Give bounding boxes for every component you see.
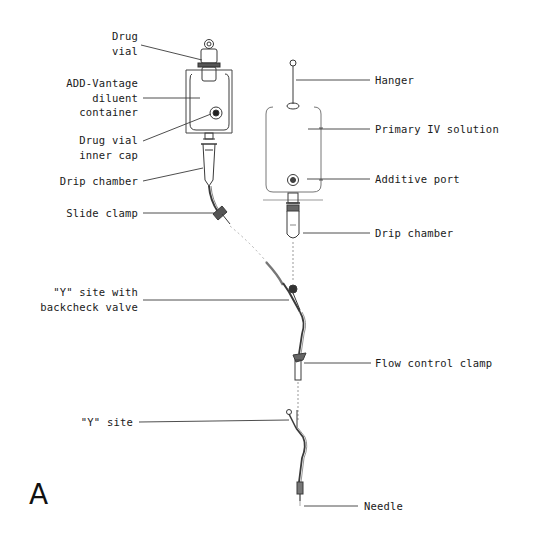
leader-y-site — [139, 420, 289, 422]
label-y-site: "Y" site — [81, 415, 133, 430]
iv-setup-diagram: Drug vial ADD-Vantage diluent container … — [0, 0, 541, 551]
label-drip-chamber-secondary: Drip chamber — [60, 174, 138, 189]
label-primary-iv-solution: Primary IV solution — [375, 122, 499, 137]
label-flow-control-clamp: Flow control clamp — [375, 356, 492, 371]
label-drip-chamber-primary: Drip chamber — [375, 226, 453, 241]
label-slide-clamp: Slide clamp — [66, 206, 138, 221]
y-site-illustration — [287, 410, 307, 483]
label-drug-vial: Drug vial — [112, 29, 138, 58]
label-additive-port: Additive port — [375, 172, 460, 187]
label-y-site-backcheck-valve: "Y" site with backcheck valve — [40, 285, 138, 314]
leader-inner-cap — [143, 114, 211, 141]
hanger-illustration — [287, 60, 299, 109]
leader-drip-chamber-secondary — [143, 168, 203, 181]
leader-lines — [139, 45, 371, 506]
secondary-drip-chamber-illustration — [201, 144, 217, 186]
diluent-container-illustration — [186, 70, 232, 139]
y-site-backcheck-illustration — [283, 283, 300, 312]
label-diluent-container: ADD-Vantage diluent container — [66, 76, 138, 120]
needle-illustration — [297, 482, 303, 506]
flow-control-clamp-illustration — [293, 353, 306, 380]
label-needle: Needle — [364, 499, 403, 514]
leader-drug-vial — [141, 45, 202, 60]
label-drug-vial-inner-cap: Drug vial inner cap — [79, 133, 138, 162]
label-hanger: Hanger — [375, 73, 414, 88]
panel-letter: A — [29, 478, 48, 511]
primary-iv-bag-illustration — [263, 107, 323, 200]
secondary-tubing — [209, 186, 220, 212]
